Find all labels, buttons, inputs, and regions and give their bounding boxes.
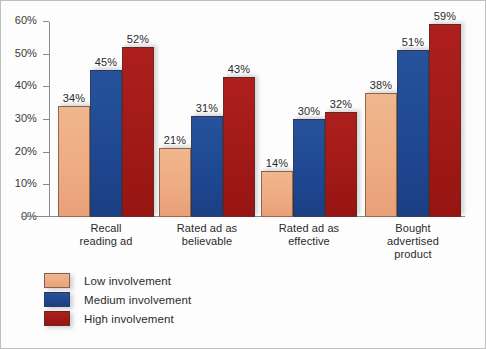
bar-group: 21%31%43% bbox=[159, 21, 255, 217]
bar-medium[interactable]: 30% bbox=[293, 119, 325, 217]
bar-column: 38% bbox=[365, 21, 397, 217]
category-label: Recallreading ad bbox=[51, 222, 161, 248]
category-label-line: Recall bbox=[51, 222, 161, 235]
category-label: Rated ad asbelievable bbox=[152, 222, 262, 248]
category-label-line: advertised bbox=[358, 235, 468, 248]
category-label-line: Bought bbox=[358, 222, 468, 235]
bar-value-label: 30% bbox=[298, 105, 320, 117]
y-axis-tick-label: 20% bbox=[15, 145, 37, 157]
bar-value-label: 45% bbox=[95, 56, 117, 68]
bar-value-label: 43% bbox=[228, 63, 250, 75]
legend-swatch-high bbox=[44, 311, 70, 326]
legend-item-high[interactable]: High involvement bbox=[44, 309, 191, 328]
bar-value-label: 21% bbox=[164, 134, 186, 146]
bar-value-label: 59% bbox=[434, 10, 456, 22]
y-axis-tick-label: 10% bbox=[15, 177, 37, 189]
y-axis-tick-label: 40% bbox=[15, 79, 37, 91]
bar-high[interactable]: 32% bbox=[325, 112, 357, 217]
category-label-line: Rated ad as bbox=[152, 222, 262, 235]
category-label-line: believable bbox=[152, 235, 262, 248]
bar-column: 45% bbox=[90, 21, 122, 217]
bar-value-label: 32% bbox=[330, 98, 352, 110]
category-label-line: reading ad bbox=[51, 235, 161, 248]
legend-swatch-low bbox=[44, 273, 70, 288]
category-label: Boughtadvertisedproduct bbox=[358, 222, 468, 261]
bar-column: 43% bbox=[223, 21, 255, 217]
bar-group: 38%51%59% bbox=[365, 21, 461, 217]
bar-low[interactable]: 38% bbox=[365, 93, 397, 217]
category-label-line: effective bbox=[254, 235, 364, 248]
bar-column: 21% bbox=[159, 21, 191, 217]
bar-medium[interactable]: 31% bbox=[191, 116, 223, 217]
bar-high[interactable]: 52% bbox=[122, 47, 154, 217]
bar-column: 34% bbox=[58, 21, 90, 217]
bar-column: 14% bbox=[261, 21, 293, 217]
y-axis-tick-label: 60% bbox=[15, 14, 37, 26]
y-axis-tick-label: 30% bbox=[15, 112, 37, 124]
legend-label: High involvement bbox=[84, 313, 174, 325]
bar-value-label: 51% bbox=[402, 36, 424, 48]
legend-item-medium[interactable]: Medium involvement bbox=[44, 290, 191, 309]
bar-value-label: 14% bbox=[266, 157, 288, 169]
legend-item-low[interactable]: Low involvement bbox=[44, 271, 191, 290]
category-label-line: Rated ad as bbox=[254, 222, 364, 235]
bar-value-label: 52% bbox=[127, 33, 149, 45]
bar-group: 14%30%32% bbox=[261, 21, 357, 217]
bar-medium[interactable]: 45% bbox=[90, 70, 122, 217]
legend-swatch-medium bbox=[44, 292, 70, 307]
category-label-line: product bbox=[358, 248, 468, 261]
bar-high[interactable]: 43% bbox=[223, 77, 255, 217]
chart-figure: 60%50%40%30%20%10%0% 34%45%52%21%31%43%1… bbox=[0, 0, 486, 349]
bar-low[interactable]: 34% bbox=[58, 106, 90, 217]
category-label: Rated ad aseffective bbox=[254, 222, 364, 248]
bar-column: 30% bbox=[293, 21, 325, 217]
bar-column: 31% bbox=[191, 21, 223, 217]
bar-low[interactable]: 21% bbox=[159, 148, 191, 217]
bar-value-label: 31% bbox=[196, 102, 218, 114]
bar-value-label: 34% bbox=[63, 92, 85, 104]
bar-column: 52% bbox=[122, 21, 154, 217]
bar-value-label: 38% bbox=[370, 79, 392, 91]
plot-area: 34%45%52%21%31%43%14%30%32%38%51%59% bbox=[49, 21, 477, 217]
legend-label: Medium involvement bbox=[84, 294, 191, 306]
legend-label: Low involvement bbox=[84, 275, 171, 287]
chart-legend: Low involvementMedium involvementHigh in… bbox=[44, 271, 191, 328]
y-axis-tick-label: 50% bbox=[15, 47, 37, 59]
bar-low[interactable]: 14% bbox=[261, 171, 293, 217]
bar-column: 51% bbox=[397, 21, 429, 217]
bar-high[interactable]: 59% bbox=[429, 24, 461, 217]
bar-medium[interactable]: 51% bbox=[397, 50, 429, 217]
bar-group: 34%45%52% bbox=[58, 21, 154, 217]
bar-column: 59% bbox=[429, 21, 461, 217]
bar-column: 32% bbox=[325, 21, 357, 217]
